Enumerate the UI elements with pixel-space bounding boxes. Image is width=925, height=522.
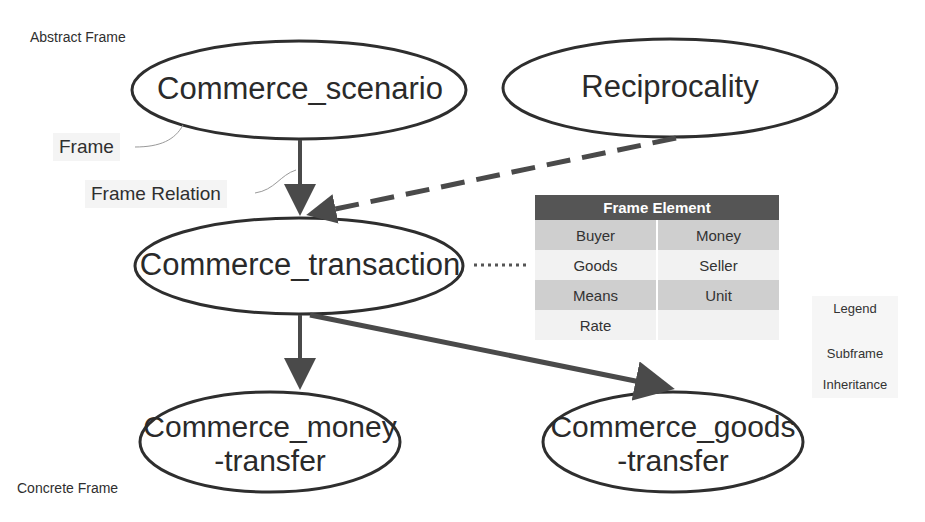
frame-relation-callout: Frame Relation	[85, 180, 227, 208]
abstract-frame-label: Abstract Frame	[30, 29, 126, 45]
frame-element-table: Frame Element Buyer Money Goods Seller M…	[533, 195, 781, 340]
table-cell: Unit	[658, 280, 779, 310]
frame-element-header: Frame Element	[535, 195, 779, 220]
legend-inheritance-label: Inheritance	[812, 377, 898, 392]
table-cell: Buyer	[535, 220, 656, 250]
table-row: Goods Seller	[535, 250, 779, 280]
node-commerce-goods-transfer-line2: -transfer	[543, 444, 803, 478]
table-row: Means Unit	[535, 280, 779, 310]
node-commerce-goods-transfer-line1: Commerce_goods	[543, 410, 803, 444]
frame-callout-pointer	[135, 125, 183, 147]
concrete-frame-label: Concrete Frame	[17, 480, 118, 496]
node-commerce-transaction: Commerce_transaction	[130, 248, 470, 283]
node-commerce-money-transfer-line1: Commerce_money	[140, 410, 400, 444]
table-cell: Rate	[535, 310, 656, 340]
legend-title: Legend	[812, 301, 898, 316]
node-commerce-scenario: Commerce_scenario	[140, 72, 460, 107]
table-cell: Goods	[535, 250, 656, 280]
node-commerce-goods-transfer: Commerce_goods -transfer	[543, 410, 803, 477]
frame-relation-callout-pointer	[255, 170, 296, 193]
legend-subframe-label: Subframe	[812, 346, 898, 361]
table-cell: Means	[535, 280, 656, 310]
table-row: Rate	[535, 310, 779, 340]
table-cell: Seller	[658, 250, 779, 280]
legend-box: Legend Subframe Inheritance	[812, 296, 898, 398]
node-commerce-money-transfer: Commerce_money -transfer	[140, 410, 400, 477]
table-cell: Money	[658, 220, 779, 250]
node-commerce-money-transfer-line2: -transfer	[140, 444, 400, 478]
node-reciprocality: Reciprocality	[510, 70, 830, 105]
table-row: Buyer Money	[535, 220, 779, 250]
table-cell	[658, 310, 779, 340]
frame-callout: Frame	[53, 133, 120, 161]
